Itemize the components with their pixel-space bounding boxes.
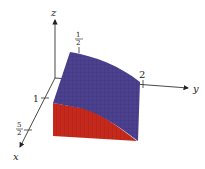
z-tick-label-num: 1 bbox=[76, 31, 80, 39]
y-tick-label-2: 2 bbox=[139, 69, 145, 80]
z-axis-label: z bbox=[50, 7, 57, 18]
x-axis-label: x bbox=[13, 151, 19, 162]
x-tick-label-num: 5 bbox=[17, 121, 21, 129]
x-tick-label-1: 1 bbox=[33, 94, 39, 104]
z-tick-label-den: 2 bbox=[76, 39, 80, 47]
solid-3d-figure: z y x 1 2 2 1 5 2 bbox=[0, 0, 205, 169]
x-tick-label-den: 2 bbox=[17, 129, 21, 137]
y-axis-label: y bbox=[192, 83, 199, 94]
x-axis bbox=[20, 78, 55, 147]
